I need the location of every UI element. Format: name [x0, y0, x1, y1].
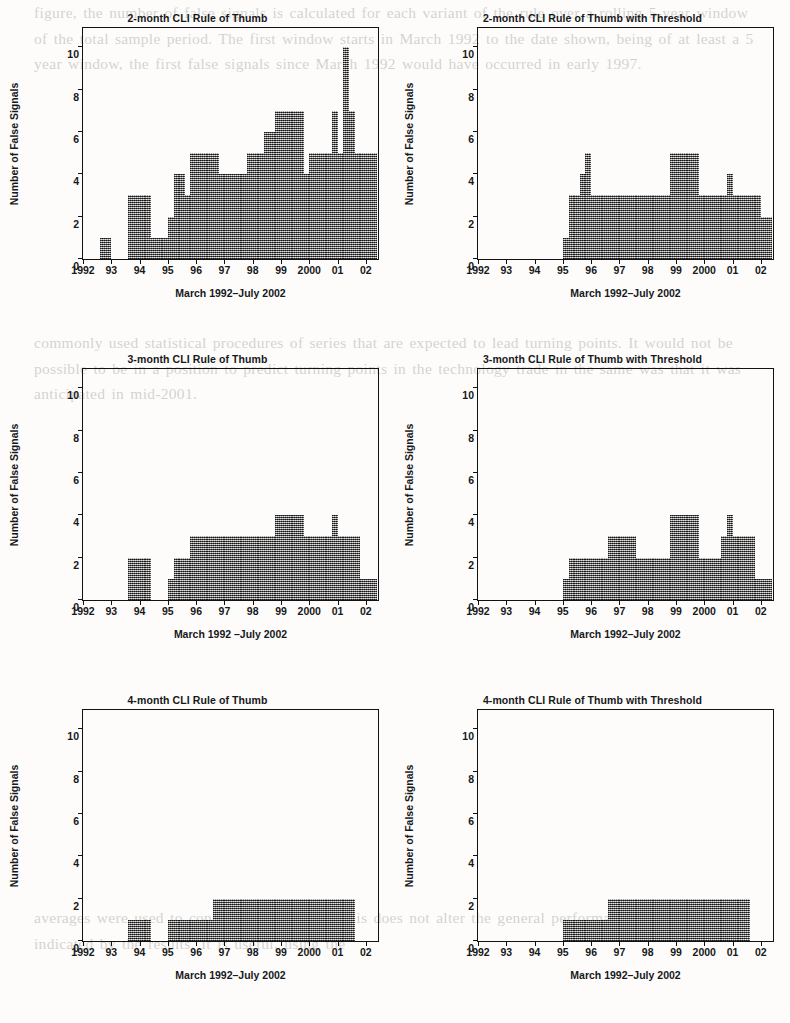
x-tick-label: 99: [275, 946, 287, 958]
x-tick-label: 96: [190, 264, 202, 276]
bar-series: [83, 28, 378, 259]
x-tick-label: 02: [360, 264, 372, 276]
figure-panel-grid: 2-month CLI Rule of ThumbNumber of False…: [0, 0, 790, 1023]
bar: [767, 217, 773, 259]
y-tick-label: 10: [462, 730, 474, 742]
x-tick-label: 94: [529, 264, 541, 276]
x-tick-label: 97: [614, 605, 626, 617]
y-axis-label: Number of False Signals: [401, 709, 417, 942]
x-tick-label: 95: [557, 264, 569, 276]
plot-frame: 024681019929394959697989920000102: [82, 709, 379, 942]
y-tick-label: 8: [73, 773, 79, 785]
y-tick-label: 10: [462, 389, 474, 401]
x-tick-label: 01: [727, 264, 739, 276]
y-tick-label: 10: [67, 48, 79, 60]
x-axis-label: March 1992–July 2002: [477, 628, 774, 640]
y-tick-label: 8: [468, 432, 474, 444]
y-axis-label-text: Number of False Signals: [8, 423, 20, 546]
bar-series: [478, 369, 773, 600]
chart-title: 3-month CLI Rule of Thumb: [0, 353, 395, 365]
y-tick-label: 6: [73, 815, 79, 827]
y-tick-label: 4: [468, 175, 474, 187]
x-tick-label: 93: [105, 264, 117, 276]
x-tick-label: 93: [105, 946, 117, 958]
y-axis-label-text: Number of False Signals: [8, 82, 20, 205]
x-axis-label: March 1992–July 2002: [477, 287, 774, 299]
x-tick-label: 02: [755, 946, 767, 958]
x-tick-label: 2000: [298, 946, 321, 958]
x-tick-label: 97: [614, 264, 626, 276]
x-tick-label: 2000: [693, 264, 716, 276]
y-tick-label: 10: [462, 48, 474, 60]
x-tick-label: 1992: [71, 264, 94, 276]
y-tick-label: 4: [73, 516, 79, 528]
x-axis-label: March 1992–July 2002: [477, 969, 774, 981]
y-tick-label: 6: [468, 133, 474, 145]
x-tick-label: 93: [500, 605, 512, 617]
bar: [767, 579, 773, 600]
y-axis-label-text: Number of False Signals: [8, 764, 20, 887]
y-tick-label: 6: [468, 474, 474, 486]
chart-title: 2-month CLI Rule of Thumb: [0, 12, 395, 24]
y-tick-label: 2: [73, 218, 79, 230]
x-tick-label: 1992: [71, 605, 94, 617]
x-tick-label: 02: [755, 264, 767, 276]
y-tick-label: 4: [468, 857, 474, 869]
y-tick-label: 4: [468, 516, 474, 528]
x-tick-label: 93: [105, 605, 117, 617]
x-tick-label: 2000: [693, 946, 716, 958]
y-tick-label: 10: [67, 389, 79, 401]
x-tick-label: 99: [670, 946, 682, 958]
x-tick-label: 94: [529, 946, 541, 958]
x-tick-label: 96: [585, 264, 597, 276]
x-tick-label: 94: [529, 605, 541, 617]
x-tick-label: 99: [275, 264, 287, 276]
bar: [106, 238, 112, 259]
bar: [372, 153, 378, 259]
chart-panel-cli-4month: 4-month CLI Rule of ThumbNumber of False…: [0, 682, 395, 1023]
x-tick-label: 99: [670, 605, 682, 617]
x-tick-label: 97: [614, 946, 626, 958]
x-axis-label: March 1992–July 2002: [82, 969, 379, 981]
x-tick-label: 98: [642, 946, 654, 958]
y-axis-label: Number of False Signals: [401, 27, 417, 260]
y-axis-label: Number of False Signals: [6, 27, 22, 260]
x-tick-label: 01: [332, 605, 344, 617]
plot-frame: 024681019929394959697989920000102: [82, 368, 379, 601]
y-tick-label: 10: [67, 730, 79, 742]
x-tick-label: 97: [219, 605, 231, 617]
plot-frame: 024681019929394959697989920000102: [477, 709, 774, 942]
x-tick-label: 93: [500, 264, 512, 276]
chart-panel-cli-2month-threshold: 2-month CLI Rule of Thumb with Threshold…: [395, 0, 790, 341]
x-axis-label: March 1992–July 2002: [82, 287, 379, 299]
y-tick-label: 2: [468, 900, 474, 912]
x-tick-label: 93: [500, 946, 512, 958]
x-tick-label: 94: [134, 605, 146, 617]
y-tick-label: 6: [73, 133, 79, 145]
x-tick-label: 99: [275, 605, 287, 617]
x-tick-label: 96: [190, 605, 202, 617]
x-tick-label: 2000: [693, 605, 716, 617]
x-tick-label: 98: [642, 264, 654, 276]
y-tick-label: 8: [73, 432, 79, 444]
bar: [145, 920, 151, 941]
y-tick-label: 6: [468, 815, 474, 827]
chart-title: 3-month CLI Rule of Thumb with Threshold: [395, 353, 790, 365]
bar-series: [83, 710, 378, 941]
y-axis-label-text: Number of False Signals: [403, 423, 415, 546]
y-tick-label: 6: [73, 474, 79, 486]
x-tick-label: 99: [670, 264, 682, 276]
x-tick-label: 95: [162, 264, 174, 276]
x-tick-label: 2000: [298, 605, 321, 617]
x-tick-label: 98: [247, 605, 259, 617]
x-tick-label: 95: [162, 946, 174, 958]
x-tick-label: 96: [585, 605, 597, 617]
x-tick-label: 96: [585, 946, 597, 958]
x-tick-label: 02: [755, 605, 767, 617]
y-tick-label: 4: [73, 175, 79, 187]
bar: [349, 899, 355, 941]
chart-panel-cli-3month: 3-month CLI Rule of ThumbNumber of False…: [0, 341, 395, 682]
x-tick-label: 01: [332, 946, 344, 958]
x-tick-label: 02: [360, 946, 372, 958]
chart-panel-cli-3month-threshold: 3-month CLI Rule of Thumb with Threshold…: [395, 341, 790, 682]
